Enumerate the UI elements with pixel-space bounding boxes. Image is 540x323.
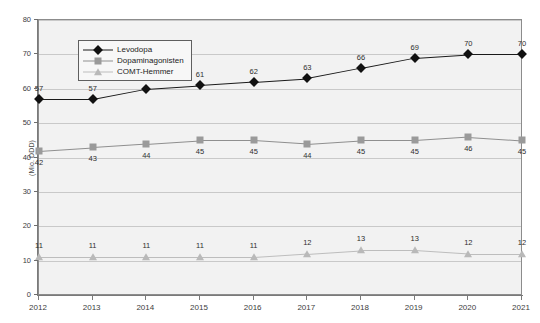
x-axis-tick-label: 2020 bbox=[447, 303, 487, 312]
data-point-marker bbox=[357, 246, 365, 253]
data-point-label: 44 bbox=[133, 151, 159, 160]
data-point-label: 13 bbox=[348, 234, 374, 243]
y-axis-tick-mark bbox=[34, 294, 38, 295]
data-point-label: 45 bbox=[187, 147, 213, 156]
y-axis-tick-mark bbox=[34, 122, 38, 123]
series-line-segment bbox=[93, 144, 147, 148]
legend-item-comt-hemmer: COMT-Hemmer bbox=[83, 66, 184, 77]
data-point-label: 57 bbox=[80, 84, 106, 93]
gridline bbox=[39, 20, 521, 21]
legend-item-dopaminagonisten: Dopaminagonisten bbox=[83, 55, 184, 66]
data-point-label: 43 bbox=[80, 154, 106, 163]
data-point-marker bbox=[143, 140, 150, 147]
data-point-label: 45 bbox=[509, 147, 535, 156]
series-line-segment bbox=[39, 147, 93, 151]
x-axis-tick-mark bbox=[414, 296, 415, 300]
data-point-marker bbox=[34, 94, 44, 104]
x-axis-tick-label: 2016 bbox=[233, 303, 273, 312]
data-point-label: 45 bbox=[348, 147, 374, 156]
data-point-label: 70 bbox=[509, 39, 535, 48]
x-axis-tick-mark bbox=[306, 296, 307, 300]
series-line-segment bbox=[307, 140, 361, 144]
y-axis-tick-label: 20 bbox=[5, 221, 31, 230]
x-axis-tick-mark bbox=[38, 296, 39, 300]
data-point-label: 12 bbox=[455, 238, 481, 247]
x-axis-tick-mark bbox=[360, 296, 361, 300]
series-line-segment bbox=[468, 54, 522, 55]
y-axis-tick-mark bbox=[34, 19, 38, 20]
y-axis-tick-label: 30 bbox=[5, 186, 31, 195]
data-point-label: 12 bbox=[509, 238, 535, 247]
series-line-segment bbox=[254, 78, 308, 82]
data-point-label: 11 bbox=[133, 241, 159, 250]
series-line-segment bbox=[254, 140, 308, 144]
y-axis-tick-mark bbox=[34, 191, 38, 192]
legend-item-levodopa: Levodopa bbox=[83, 44, 184, 55]
data-point-marker bbox=[89, 253, 97, 260]
y-axis-tick-mark bbox=[34, 53, 38, 54]
data-point-marker bbox=[465, 133, 472, 140]
series-line-segment bbox=[146, 140, 200, 144]
series-line-segment bbox=[468, 254, 522, 255]
series-line-segment bbox=[39, 257, 93, 258]
legend-label-comt-hemmer: COMT-Hemmer bbox=[117, 67, 173, 76]
x-axis-tick-mark bbox=[92, 296, 93, 300]
data-point-marker bbox=[141, 84, 151, 94]
series-line-segment bbox=[415, 137, 469, 141]
series-line-segment bbox=[415, 250, 469, 254]
legend-key-levodopa-icon bbox=[83, 44, 113, 55]
y-axis-tick-mark bbox=[34, 225, 38, 226]
series-line-segment bbox=[200, 257, 254, 258]
data-point-label: 11 bbox=[241, 241, 267, 250]
data-point-marker bbox=[304, 140, 311, 147]
data-point-marker bbox=[464, 250, 472, 257]
y-axis-tick-label: 10 bbox=[5, 255, 31, 264]
y-axis-tick-mark bbox=[34, 88, 38, 89]
data-point-label: 13 bbox=[402, 234, 428, 243]
x-axis-tick-label: 2014 bbox=[125, 303, 165, 312]
data-point-marker bbox=[519, 137, 526, 144]
x-axis-tick-label: 2018 bbox=[340, 303, 380, 312]
gridline bbox=[39, 89, 521, 90]
data-point-marker bbox=[142, 253, 150, 260]
data-point-label: 11 bbox=[80, 241, 106, 250]
data-point-marker bbox=[411, 137, 418, 144]
gridline bbox=[39, 158, 521, 159]
data-point-marker bbox=[197, 137, 204, 144]
x-axis-tick-mark bbox=[253, 296, 254, 300]
x-axis-tick-mark bbox=[199, 296, 200, 300]
y-axis-tick-mark bbox=[34, 260, 38, 261]
y-axis-tick-mark bbox=[34, 157, 38, 158]
x-axis-tick-mark bbox=[467, 296, 468, 300]
data-point-label: 44 bbox=[294, 151, 320, 160]
x-axis-tick-label: 2017 bbox=[286, 303, 326, 312]
data-point-label: 46 bbox=[455, 144, 481, 153]
data-point-marker bbox=[196, 253, 204, 260]
y-axis-tick-label: 40 bbox=[5, 152, 31, 161]
data-point-marker bbox=[250, 253, 258, 260]
data-point-marker bbox=[303, 250, 311, 257]
x-axis-tick-label: 2021 bbox=[501, 303, 540, 312]
data-point-label: 12 bbox=[294, 238, 320, 247]
legend-key-dopaminagonisten-icon bbox=[83, 55, 113, 66]
y-axis-tick-label: 80 bbox=[5, 15, 31, 24]
legend-label-levodopa: Levodopa bbox=[117, 45, 152, 54]
series-line-segment bbox=[361, 140, 415, 141]
data-point-label: 62 bbox=[241, 67, 267, 76]
data-point-marker bbox=[517, 49, 527, 59]
y-axis-tick-label: 50 bbox=[5, 118, 31, 127]
x-axis-tick-label: 2019 bbox=[394, 303, 434, 312]
series-line-segment bbox=[254, 254, 308, 258]
legend-key-comt-hemmer-icon bbox=[83, 66, 113, 77]
y-axis-tick-label: 70 bbox=[5, 49, 31, 58]
data-point-label: 63 bbox=[294, 63, 320, 72]
legend-label-dopaminagonisten: Dopaminagonisten bbox=[117, 56, 184, 65]
data-point-marker bbox=[250, 137, 257, 144]
x-axis-tick-mark bbox=[521, 296, 522, 300]
data-point-marker bbox=[249, 77, 259, 87]
data-point-label: 11 bbox=[26, 241, 52, 250]
series-line-segment bbox=[146, 257, 200, 258]
series-line-segment bbox=[200, 140, 254, 141]
series-line-segment bbox=[468, 137, 522, 141]
y-axis-tick-label: 60 bbox=[5, 83, 31, 92]
